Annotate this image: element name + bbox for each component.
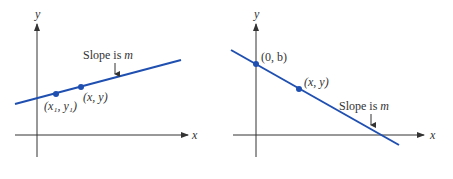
right-point-0-b-label: (0, b): [261, 50, 287, 64]
right-slope-label-prefix: Slope is: [339, 99, 380, 113]
right-slope-label: Slope is m: [339, 99, 389, 113]
slope-diagrams: y x (x₁, y₁) (x, y) Slope is m y x (0, b…: [0, 0, 453, 179]
right-point-x-y-label: (x, y): [304, 75, 329, 89]
right-point-x-y: [296, 86, 302, 92]
right-slope-label-var: m: [380, 99, 389, 113]
left-slope-label-var: m: [124, 48, 133, 62]
left-point-x1-y1: [53, 91, 59, 97]
left-point-x1-y1-label: (x₁, y₁): [44, 99, 77, 113]
left-x-axis-label: x: [191, 128, 198, 142]
left-y-axis-label: y: [34, 7, 41, 21]
left-slope-label-prefix: Slope is: [83, 48, 124, 62]
right-y-axis-label: y: [253, 7, 260, 21]
left-point-x-y-label: (x, y): [83, 90, 108, 104]
right-x-axis-label: x: [429, 128, 436, 142]
right-point-0-b: [253, 61, 259, 67]
right-graph: y x (0, b) (x, y) Slope is m: [231, 7, 436, 157]
left-graph: y x (x₁, y₁) (x, y) Slope is m: [15, 7, 198, 157]
left-slope-label: Slope is m: [83, 48, 133, 62]
